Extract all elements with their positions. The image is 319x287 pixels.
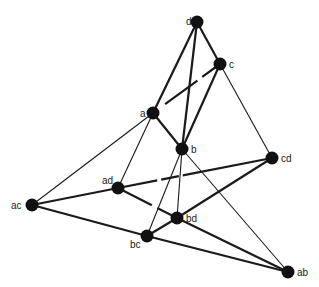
edges-layer — [32, 22, 288, 272]
edge-a-ad — [118, 113, 153, 188]
edge-d-c — [197, 22, 220, 64]
edge-d-a — [153, 22, 197, 113]
edge-ad-bd — [118, 188, 177, 218]
node-ac — [26, 199, 39, 212]
edge-c-cd — [220, 64, 272, 158]
node-label-ac: ac — [11, 200, 22, 211]
node-b — [176, 143, 189, 156]
node-c — [214, 58, 227, 71]
node-a — [147, 107, 160, 120]
node-d — [191, 16, 204, 29]
edge-b-ab — [182, 149, 288, 272]
node-cd — [266, 152, 279, 165]
node-label-bc: bc — [130, 239, 141, 250]
node-label-c: c — [229, 59, 234, 70]
edge-ac-bc — [32, 205, 147, 236]
node-label-bd: bd — [186, 213, 197, 224]
node-label-ab: ab — [297, 267, 309, 278]
edge-bd-ab — [177, 218, 288, 272]
lattice-diagram: dcabcdadacbdbcab — [0, 0, 319, 287]
edge-ac-ad — [32, 188, 118, 205]
node-bc — [141, 230, 154, 243]
node-label-ad: ad — [102, 175, 113, 186]
node-label-a: a — [140, 108, 146, 119]
node-ab — [282, 266, 295, 279]
edge-a-ac — [32, 113, 153, 205]
edge-bc-ab — [147, 236, 288, 272]
node-label-b: b — [191, 144, 197, 155]
edge-a-b — [153, 113, 182, 149]
node-label-d: d — [186, 16, 192, 27]
node-label-cd: cd — [281, 153, 292, 164]
node-ad — [112, 182, 125, 195]
node-bd — [171, 212, 184, 225]
